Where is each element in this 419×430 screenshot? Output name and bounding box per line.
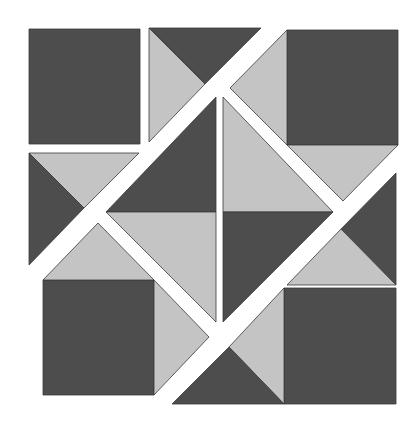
bottom-right-square [284,288,396,404]
top-right-square [287,30,398,145]
top-left-square [29,29,140,144]
quilt-block-canvas [0,0,419,430]
bottom-left-square [43,280,154,395]
